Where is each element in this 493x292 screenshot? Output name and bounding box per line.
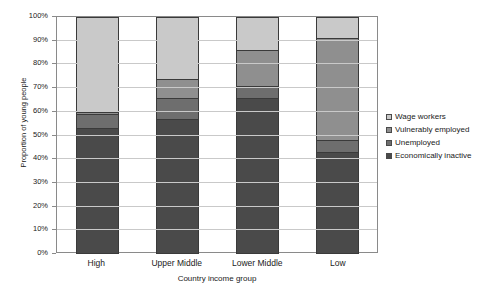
- bar-segment-unemployed[interactable]: [156, 98, 199, 119]
- bar-segment-unemployed[interactable]: [76, 114, 119, 128]
- x-axis-tick-labels: HighUpper MiddleLower MiddleLow: [56, 258, 378, 272]
- gridline: [57, 40, 377, 41]
- y-axis-tick-label: 80%: [33, 59, 48, 67]
- plot-area: [56, 16, 378, 253]
- bar-segment-vulnerably-employed[interactable]: [316, 38, 359, 140]
- chart-legend: Wage workersVulnerably employedUnemploye…: [386, 112, 471, 160]
- y-axis-title: Proportion of young people: [19, 43, 28, 203]
- gridline: [57, 87, 377, 88]
- legend-label: Vulnerably employed: [395, 125, 469, 134]
- gridline: [57, 182, 377, 183]
- bar-segment-wage-workers[interactable]: [76, 17, 119, 112]
- legend-item-vulnerably-employed[interactable]: Vulnerably employed: [386, 125, 471, 134]
- legend-item-unemployed[interactable]: Unemployed: [386, 138, 471, 147]
- legend-swatch-icon: [386, 140, 392, 146]
- bar-segment-economically-inactive[interactable]: [316, 152, 359, 254]
- y-axis-tick-label: 10%: [33, 225, 48, 233]
- x-axis-title: Country income group: [56, 274, 378, 284]
- bar-segment-vulnerably-employed[interactable]: [236, 50, 279, 86]
- x-axis-tick-label: Lower Middle: [222, 258, 292, 268]
- bar-segment-economically-inactive[interactable]: [236, 98, 279, 254]
- y-axis-tick-label: 50%: [33, 131, 48, 139]
- legend-swatch-icon: [386, 127, 392, 133]
- bar-segment-economically-inactive[interactable]: [156, 119, 199, 254]
- gridline: [57, 158, 377, 159]
- y-axis-tick-label: 60%: [33, 107, 48, 115]
- legend-item-wage-workers[interactable]: Wage workers: [386, 112, 471, 121]
- x-axis-tick-label: Low: [303, 258, 373, 268]
- y-axis-tick-label: 100%: [29, 12, 48, 20]
- gridline: [57, 63, 377, 64]
- bar-segment-wage-workers[interactable]: [236, 17, 279, 50]
- gridline: [57, 135, 377, 136]
- y-axis: Proportion of young people 0%10%20%30%40…: [0, 0, 54, 292]
- legend-swatch-icon: [386, 153, 392, 159]
- legend-label: Economically inactive: [395, 151, 471, 160]
- y-axis-tick-label: 90%: [33, 36, 48, 44]
- y-axis-tick-label: 0%: [37, 249, 48, 257]
- legend-item-economically-inactive[interactable]: Economically inactive: [386, 151, 471, 160]
- legend-label: Unemployed: [395, 138, 440, 147]
- gridline: [57, 206, 377, 207]
- bar-segment-wage-workers[interactable]: [156, 17, 199, 79]
- y-axis-tick-label: 20%: [33, 202, 48, 210]
- x-axis-tick-label: High: [61, 258, 131, 268]
- bar-segment-wage-workers[interactable]: [316, 17, 359, 38]
- gridline: [57, 229, 377, 230]
- y-axis-tickmark: [52, 253, 56, 254]
- gridline: [57, 111, 377, 112]
- y-axis-tick-label: 70%: [33, 83, 48, 91]
- legend-swatch-icon: [386, 114, 392, 120]
- chart-container: Proportion of young people 0%10%20%30%40…: [0, 0, 493, 292]
- bar-segment-economically-inactive[interactable]: [76, 128, 119, 254]
- y-axis-tick-label: 40%: [33, 154, 48, 162]
- legend-label: Wage workers: [395, 112, 446, 121]
- y-axis-tick-label: 30%: [33, 178, 48, 186]
- x-axis-tick-label: Upper Middle: [142, 258, 212, 268]
- bar-segment-unemployed[interactable]: [316, 140, 359, 152]
